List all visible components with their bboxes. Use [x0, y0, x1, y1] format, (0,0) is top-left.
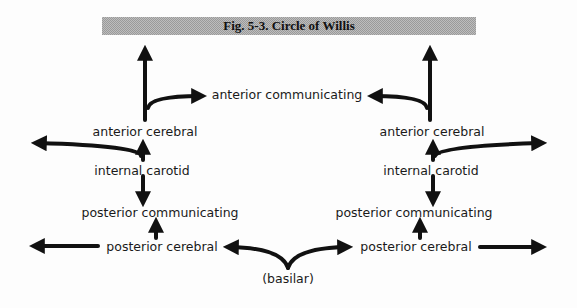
anterior-communicating-label: anterior communicating: [212, 88, 363, 102]
left-external-branch-arrow: [38, 143, 141, 156]
basilar-label: (basilar): [262, 272, 314, 286]
circle-of-willis-diagram: Fig. 5-3. Circle of Willis: [0, 0, 577, 308]
right-anterior-cerebral-label: anterior cerebral: [380, 125, 485, 139]
right-internal-carotid-label: internal carotid: [383, 164, 478, 178]
arrow-layer: [0, 0, 577, 308]
left-posterior-cerebral-label: posterior cerebral: [106, 240, 217, 254]
left-anterior-communicating-arrow: [148, 96, 200, 108]
basilar-to-right-arrow: [288, 247, 346, 268]
right-posterior-communicating-label: posterior communicating: [335, 206, 492, 220]
right-anterior-communicating-arrow: [374, 96, 427, 108]
basilar-to-left-arrow: [230, 247, 288, 268]
right-posterior-cerebral-label: posterior cerebral: [360, 240, 471, 254]
left-posterior-communicating-label: posterior communicating: [81, 206, 238, 220]
right-external-branch-arrow: [435, 143, 540, 156]
left-anterior-cerebral-label: anterior cerebral: [93, 125, 198, 139]
left-internal-carotid-label: internal carotid: [94, 164, 189, 178]
